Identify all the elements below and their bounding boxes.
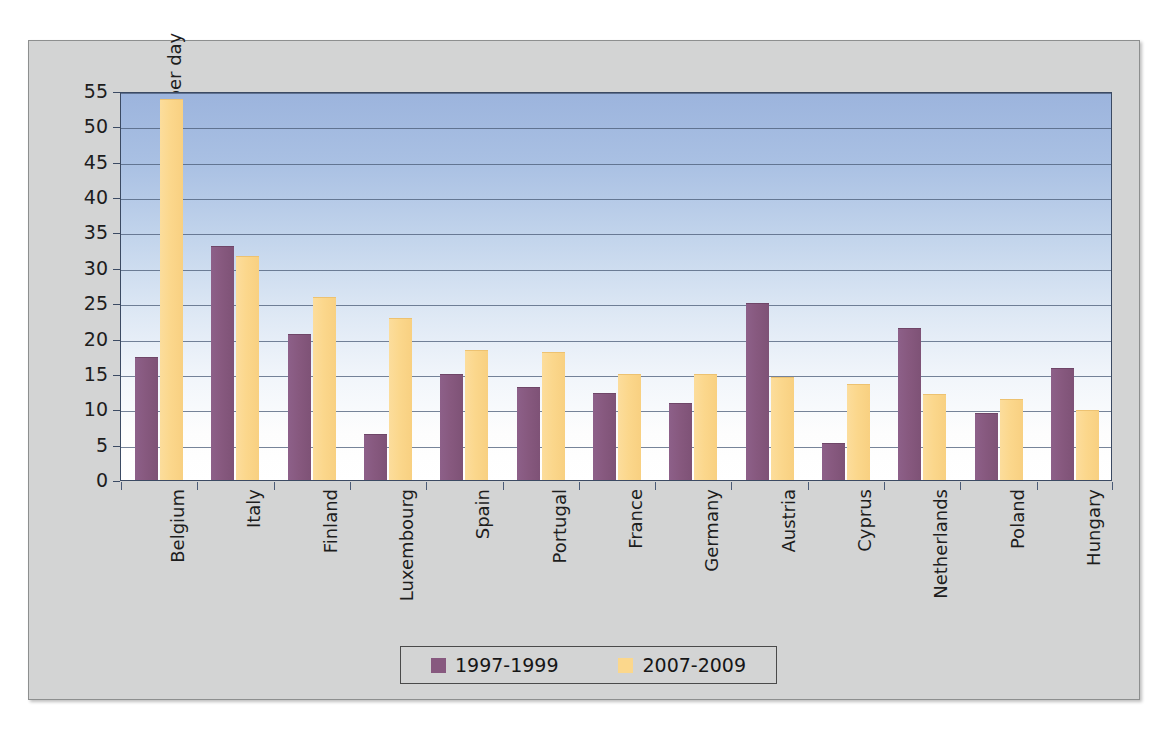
x-label-portugal: Portugal [549,489,570,649]
y-tick-label-40: 40 [64,188,108,207]
bar-netherlands-2007-2009 [923,394,946,480]
y-tick-label-15: 15 [64,365,108,384]
gridline-55 [121,93,1111,94]
x-tick-germany [655,482,656,490]
chart-legend: 1997-1999 2007-2009 [400,646,777,684]
x-tick-end [1112,482,1113,490]
gridline-25 [121,305,1111,306]
legend-label-2007-2009: 2007-2009 [642,656,746,675]
legend-label-1997-1999: 1997-1999 [455,656,559,675]
x-tick-luxembourg [350,482,351,490]
bar-finland-2007-2009 [313,297,336,480]
legend-swatch-icon-2007-2009 [618,658,633,673]
y-tick-label-50: 50 [64,117,108,136]
y-tick-mark-25 [113,304,120,305]
x-axis-ticks [121,482,1111,490]
x-label-cyprus: Cyprus [854,489,875,649]
gridline-20 [121,341,1111,342]
x-label-belgium: Belgium [167,489,188,649]
x-tick-italy [197,482,198,490]
x-tick-finland [274,482,275,490]
bar-finland-1997-1999 [288,334,311,480]
x-tick-hungary [1037,482,1038,490]
bar-france-1997-1999 [593,393,616,480]
bar-belgium-1997-1999 [135,357,158,480]
x-tick-portugal [503,482,504,490]
bar-belgium-2007-2009 [160,99,183,480]
x-tick-france [579,482,580,490]
y-tick-mark-10 [113,410,120,411]
x-tick-austria [731,482,732,490]
y-tick-mark-5 [113,446,120,447]
chart-card: S-DDD per 1,000 inhabitants per day 0510… [28,40,1140,700]
bar-italy-1997-1999 [211,246,234,480]
gridline-10 [121,411,1111,412]
bar-austria-1997-1999 [746,303,769,480]
bar-hungary-2007-2009 [1076,410,1099,480]
x-label-poland: Poland [1007,489,1028,649]
y-tick-label-35: 35 [64,223,108,242]
y-tick-mark-40 [113,198,120,199]
plot-area [120,92,1112,481]
x-tick-netherlands [884,482,885,490]
x-label-spain: Spain [472,489,493,649]
x-tick-belgium [121,482,122,490]
x-label-italy: Italy [243,489,264,649]
gridline-50 [121,128,1111,129]
bar-hungary-1997-1999 [1051,368,1074,480]
y-tick-mark-0 [113,481,120,482]
y-tick-label-0: 0 [64,471,108,490]
y-tick-mark-30 [113,269,120,270]
bar-cyprus-1997-1999 [822,443,845,480]
x-tick-poland [960,482,961,490]
x-label-hungary: Hungary [1083,489,1104,649]
bar-poland-2007-2009 [1000,399,1023,480]
y-tick-label-20: 20 [64,330,108,349]
bar-poland-1997-1999 [975,413,998,480]
y-tick-label-10: 10 [64,400,108,419]
x-label-finland: Finland [320,489,341,649]
y-tick-label-5: 5 [64,436,108,455]
bar-cyprus-2007-2009 [847,384,870,480]
gridline-40 [121,199,1111,200]
gridline-15 [121,376,1111,377]
gridline-30 [121,270,1111,271]
y-tick-label-30: 30 [64,259,108,278]
y-tick-label-45: 45 [64,153,108,172]
legend-swatch-icon-1997-1999 [431,658,446,673]
x-tick-cyprus [808,482,809,490]
legend-entry-series-2: 2007-2009 [618,656,746,675]
bar-portugal-1997-1999 [517,387,540,480]
bar-france-2007-2009 [618,374,641,480]
bar-luxembourg-1997-1999 [364,434,387,480]
bar-portugal-2007-2009 [542,352,565,480]
gridline-45 [121,164,1111,165]
bar-spain-1997-1999 [440,374,463,480]
bar-germany-1997-1999 [669,403,692,480]
x-label-luxembourg: Luxembourg [396,489,417,649]
legend-entry-series-1: 1997-1999 [431,656,559,675]
gridline-35 [121,234,1111,235]
bar-spain-2007-2009 [465,350,488,480]
gridline-5 [121,447,1111,448]
x-tick-spain [426,482,427,490]
x-label-netherlands: Netherlands [930,489,951,649]
y-tick-mark-15 [113,375,120,376]
bar-italy-2007-2009 [236,256,259,480]
bar-austria-2007-2009 [771,377,794,480]
y-tick-mark-55 [113,92,120,93]
y-tick-mark-50 [113,127,120,128]
y-tick-mark-20 [113,340,120,341]
x-label-austria: Austria [778,489,799,649]
x-label-france: France [625,489,646,649]
y-tick-mark-35 [113,233,120,234]
y-tick-label-25: 25 [64,294,108,313]
bar-netherlands-1997-1999 [898,328,921,480]
bar-luxembourg-2007-2009 [389,318,412,480]
y-tick-mark-45 [113,163,120,164]
y-tick-label-55: 55 [64,82,108,101]
x-label-germany: Germany [701,489,722,649]
bar-germany-2007-2009 [694,374,717,480]
